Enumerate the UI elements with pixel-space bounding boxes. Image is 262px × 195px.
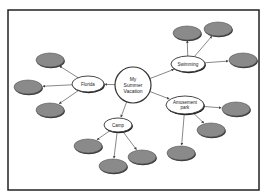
subtopic-node-florida-2[interactable]: [14, 80, 43, 95]
subtopic-node-camp-2[interactable]: [99, 159, 128, 174]
subtopic-node-camp-3[interactable]: [128, 150, 157, 165]
topic-node-amusement-park[interactable]: Amusementpark: [166, 96, 205, 115]
topic-node-camp[interactable]: Camp: [104, 118, 133, 133]
nodes-layer: MySummerVacationFloridaSwimmingAmusement…: [14, 22, 258, 174]
subtopic-node-florida-3[interactable]: [36, 103, 65, 118]
mind-map-diagram: MySummerVacationFloridaSwimmingAmusement…: [0, 0, 262, 195]
subtopic-node-camp-1[interactable]: [74, 139, 103, 154]
topic-node-swimming[interactable]: Swimming: [171, 56, 206, 73]
node-label: Amusement: [173, 100, 198, 105]
subtopic-node-amusement-park-2[interactable]: [197, 123, 226, 138]
subtopic-node-swimming-3[interactable]: [229, 53, 258, 68]
subtopic-node-amusement-park-1[interactable]: [222, 102, 251, 117]
subtopic-node-amusement-park-3[interactable]: [167, 146, 196, 161]
subtopic-node-swimming-1[interactable]: [173, 26, 202, 41]
mind-map-canvas: MySummerVacationFloridaSwimmingAmusement…: [0, 0, 262, 195]
node-label: Vacation: [123, 88, 142, 94]
topic-node-florida[interactable]: Florida: [72, 76, 105, 93]
subtopic-node-swimming-2[interactable]: [204, 22, 233, 37]
node-label: park: [181, 105, 191, 110]
node-label: Swimming: [178, 62, 199, 67]
subtopic-node-florida-1[interactable]: [36, 53, 65, 68]
central-topic-node[interactable]: MySummerVacation: [115, 67, 151, 103]
node-label: Florida: [81, 82, 95, 87]
node-label: Camp: [112, 123, 125, 128]
